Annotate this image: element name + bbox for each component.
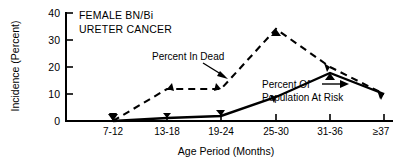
y-axis-title: Incidence (Percent): [9, 20, 21, 111]
annotation-percent-in-dead-label: Percent In Dead: [152, 51, 224, 62]
y-tick-label-20: 20: [48, 61, 60, 73]
x-tick-label-13-18: 13-18: [154, 126, 180, 137]
x-tick-label-37plus: ≥37: [373, 126, 390, 137]
x-tick-label-7-12: 7-12: [103, 126, 123, 137]
series-dashed-marker-19-24: [214, 83, 221, 91]
y-tick-label-30: 30: [48, 34, 60, 46]
annotation-population-at-risk-line-1: Percent Of: [262, 79, 310, 90]
chart-title-line-1: FEMALE BN/Bi: [79, 9, 153, 21]
x-tick-label-25-30: 25-30: [263, 126, 289, 137]
x-tick-label-31-36: 31-36: [317, 126, 343, 137]
y-tick-label-10: 10: [48, 88, 60, 100]
x-tick-label-19-24: 19-24: [208, 126, 234, 137]
x-axis-title: Age Period (Months): [178, 145, 274, 157]
annotation-population-at-risk-line-2: Population At Risk: [262, 92, 344, 103]
series-percent-of-population-at-risk: [113, 73, 384, 121]
chart-title-line-2: URETER CANCER: [79, 23, 172, 35]
series-dashed-marker-31-36: [324, 63, 330, 72]
chart-container: Incidence (Percent) 40 30 20 10 0 7-12 1…: [0, 0, 395, 167]
y-tick-label-40: 40: [48, 7, 60, 19]
annotation-population-at-risk-arrow-icon: [340, 80, 349, 88]
y-tick-label-0: 0: [54, 115, 60, 127]
line-chart: Incidence (Percent) 40 30 20 10 0 7-12 1…: [0, 0, 395, 167]
